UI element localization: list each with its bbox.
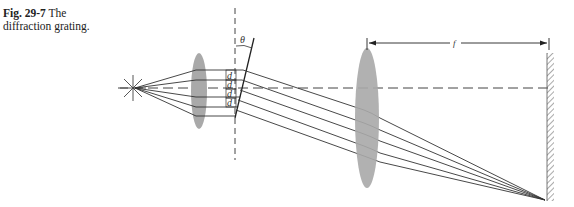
focusing-lens <box>355 48 379 188</box>
screen <box>547 53 554 201</box>
diffraction-grating-diagram: θ d d d d f <box>0 0 574 207</box>
focal-length-label: f <box>453 38 457 48</box>
angle-arc <box>236 45 252 48</box>
diffracted-rays <box>236 70 545 200</box>
angle-label: θ <box>240 34 245 45</box>
point-source-icon <box>120 75 146 101</box>
d-label-4: d <box>227 97 233 108</box>
collimating-lens <box>191 53 207 129</box>
diffraction-grating <box>235 38 254 118</box>
